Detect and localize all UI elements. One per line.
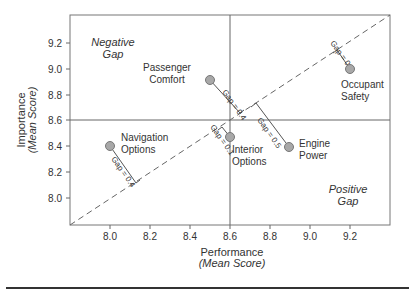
- y-tick-label: 9.2: [48, 38, 62, 49]
- y-tick-label: 9.0: [48, 64, 62, 75]
- y-tick-label: 8.0: [48, 193, 62, 204]
- y-tick-label: 8.2: [48, 167, 62, 178]
- x-tick-label: 9.0: [303, 231, 317, 242]
- y-tick-label: 8.8: [48, 90, 62, 101]
- point-label: Engine: [299, 138, 331, 149]
- point-label: Comfort: [149, 74, 185, 85]
- x-tick-label: 8.2: [143, 231, 157, 242]
- point-label: Safety: [341, 91, 369, 102]
- gap-label-navigation-options: Gap = 0.4: [109, 155, 137, 190]
- point-passenger-comfort: [206, 76, 215, 85]
- bottom-rule: [6, 287, 409, 289]
- point-label: Occupant: [341, 79, 384, 90]
- x-axis: 8.0 8.2 8.4 8.6 8.8 9.0 9.2: [103, 225, 357, 242]
- x-tick-label: 8.4: [183, 231, 197, 242]
- y-tick-label: 8.6: [48, 115, 62, 126]
- point-label: Power: [299, 150, 328, 161]
- point-occupant-safety: [346, 65, 355, 74]
- x-axis-subtitle: (Mean Score): [199, 257, 266, 269]
- positive-gap-label: Positive: [329, 183, 368, 195]
- quadrant-scatter-chart: 9.2 9.0 8.8 8.6 8.4 8.2 8.0 8.0 8.2 8.4 …: [0, 0, 411, 290]
- x-tick-label: 8.6: [223, 231, 237, 242]
- x-tick-label: 8.0: [103, 231, 117, 242]
- x-tick-label: 8.8: [263, 231, 277, 242]
- y-tick-label: 8.4: [48, 141, 62, 152]
- gap-label-passenger-comfort: Gap = 0.4: [220, 88, 248, 123]
- negative-gap-label: Negative: [91, 36, 134, 48]
- negative-gap-label: Gap: [103, 48, 124, 60]
- point-engine-power: [285, 143, 294, 152]
- point-label: Passenger: [143, 62, 191, 73]
- point-label: Navigation: [121, 132, 168, 143]
- y-axis: 9.2 9.0 8.8 8.6 8.4 8.2 8.0: [48, 38, 70, 204]
- point-label: Options: [121, 144, 155, 155]
- point-label: Options: [232, 156, 266, 167]
- positive-gap-label: Gap: [338, 195, 359, 207]
- point-navigation-options: [106, 142, 115, 151]
- point-interior-options: [226, 133, 235, 142]
- point-label: Interior: [232, 144, 264, 155]
- y-axis-subtitle: (Mean Score): [26, 86, 38, 153]
- x-tick-label: 9.2: [343, 231, 357, 242]
